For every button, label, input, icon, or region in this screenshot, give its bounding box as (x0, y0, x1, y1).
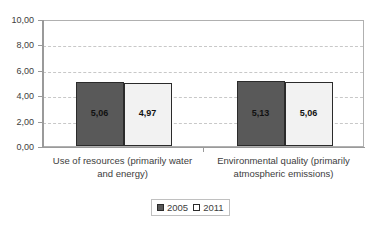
y-axis-tick-label: 6,00 (0, 67, 34, 76)
category-label: Environmental quality (primarilyatmosphe… (203, 154, 364, 180)
plot-area: 5,064,975,135,06 (42, 20, 364, 147)
gridline (43, 46, 363, 47)
bar-value-label: 4,97 (125, 109, 171, 118)
y-axis-tick-label: 4,00 (0, 92, 34, 101)
y-axis-tick-label: 2,00 (0, 118, 34, 127)
bar-value-label: 5,06 (286, 109, 332, 118)
bar-2011-cat2: 5,06 (285, 82, 333, 146)
category-label-line: Environmental quality (primarily (203, 154, 364, 167)
category-label-line: Use of resources (primarily water (42, 154, 203, 167)
bar-value-label: 5,13 (238, 109, 284, 118)
legend-label: 2011 (203, 202, 223, 213)
bar-chart: 10,008,006,004,002,000,00 5,064,975,135,… (0, 0, 379, 229)
y-axis-tick-label: 8,00 (0, 41, 34, 50)
bar-2011-cat1: 4,97 (124, 83, 172, 146)
chart-legend: 20052011 (151, 199, 230, 216)
gridline (43, 72, 363, 73)
bar-value-label: 5,06 (77, 109, 123, 118)
legend-item-2005: 2005 (157, 202, 188, 213)
y-axis-tick-label: 10,00 (0, 16, 34, 25)
bar-2005-cat2: 5,13 (237, 81, 285, 146)
legend-swatch-icon (193, 204, 200, 211)
category-tick-mark (203, 147, 204, 152)
y-axis-tick-label: 0,00 (0, 143, 34, 152)
category-label-line: and energy) (42, 167, 203, 180)
y-axis-line (42, 20, 44, 148)
legend-item-2011: 2011 (193, 202, 223, 213)
bar-2005-cat1: 5,06 (76, 82, 124, 146)
legend-label: 2005 (167, 202, 188, 213)
legend-swatch-icon (157, 204, 164, 211)
category-label: Use of resources (primarily waterand ene… (42, 154, 203, 180)
category-label-line: atmospheric emissions) (203, 167, 364, 180)
